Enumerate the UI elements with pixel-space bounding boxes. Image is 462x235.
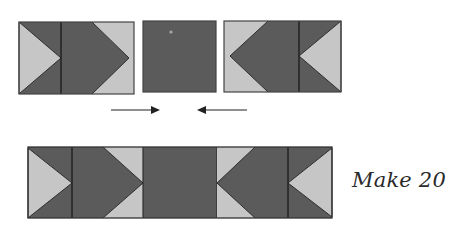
top-center-square [143, 21, 216, 92]
top-left-geese-unit [19, 22, 134, 94]
arrow-left [197, 106, 247, 114]
arrow-left-head-icon [197, 106, 206, 114]
top-center-square-fill [143, 21, 216, 92]
assembled-strip [28, 147, 332, 218]
quilt-block-diagram [0, 0, 462, 235]
arrow-right [111, 106, 160, 114]
top-right-geese-unit [224, 21, 341, 92]
strip-background [28, 147, 332, 218]
make-quantity-caption: Make 20 [352, 168, 446, 192]
fabric-speck [169, 30, 172, 33]
arrow-right-head-icon [151, 106, 160, 114]
